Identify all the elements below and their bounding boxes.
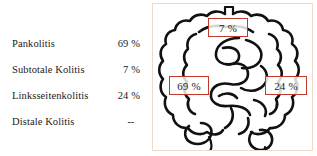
legend-value: -- (128, 116, 140, 127)
legend-value: 24 % (118, 90, 140, 101)
legend-label: Linksseitenkolitis (12, 90, 88, 101)
callout-descending-colon: 24 % (265, 76, 307, 95)
legend-table: Pankolitis 69 % Subtotale Kolitis 7 % Li… (0, 0, 150, 156)
legend-label: Distale Kolitis (12, 116, 74, 127)
legend-label: Subtotale Kolitis (12, 64, 85, 75)
legend-label: Pankolitis (12, 38, 55, 49)
legend-row-pankolitis: Pankolitis 69 % (12, 38, 140, 52)
legend-row-linksseitenkolitis: Linksseitenkolitis 24 % (12, 90, 140, 104)
legend-row-distale-kolitis: Distale Kolitis -- (12, 116, 140, 130)
figure-root: Pankolitis 69 % Subtotale Kolitis 7 % Li… (0, 0, 317, 156)
legend-value: 69 % (118, 38, 140, 49)
callout-transverse-colon: 7 % (208, 18, 248, 37)
colon-diagram-panel: 7 % 69 % 24 % (152, 3, 313, 151)
callout-ascending-colon: 69 % (169, 76, 209, 95)
legend-row-subtotale-kolitis: Subtotale Kolitis 7 % (12, 64, 140, 78)
legend-value: 7 % (123, 64, 140, 75)
